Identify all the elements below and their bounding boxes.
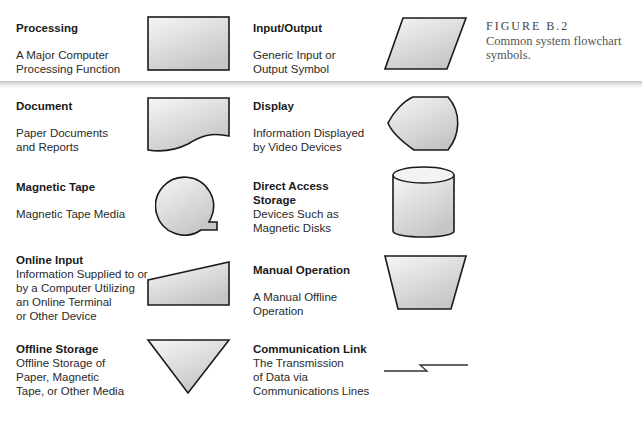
manual-operation-desc-1: A Manual Offline	[253, 290, 350, 304]
display-icon	[386, 95, 462, 153]
document-desc-2: and Reports	[16, 140, 108, 154]
offline-storage-label: Offline Storage Offline Storage of Paper…	[16, 342, 124, 398]
document-label: Document Paper Documents and Reports	[16, 99, 108, 154]
offline-storage-title: Offline Storage	[16, 342, 124, 356]
document-desc-1: Paper Documents	[16, 126, 108, 140]
online-input-desc-3: an Online Terminal	[16, 295, 148, 309]
manual-operation-title: Manual Operation	[253, 263, 350, 277]
direct-access-storage-title-2: Storage	[253, 193, 339, 207]
communication-link-desc-2: of Data via	[253, 370, 369, 384]
direct-access-storage-cylinder-icon	[391, 165, 457, 241]
magnetic-tape-label: Magnetic Tape Magnetic Tape Media	[16, 180, 125, 221]
online-input-title: Online Input	[16, 253, 148, 267]
figure-number: FIGURE B.2	[486, 19, 626, 34]
processing-label: Processing A Major Computer Processing F…	[16, 21, 120, 76]
communication-link-desc-3: Communications Lines	[253, 384, 369, 398]
document-title: Document	[16, 99, 108, 113]
manual-operation-trapezoid-icon	[383, 254, 469, 312]
magnetic-tape-desc-1: Magnetic Tape Media	[16, 207, 125, 221]
communication-link-title: Communication Link	[253, 342, 369, 356]
figure-caption-text: Common system flowchart symbols.	[486, 34, 626, 62]
direct-access-storage-desc-2: Magnetic Disks	[253, 221, 339, 235]
input-output-desc-2: Output Symbol	[253, 62, 335, 76]
manual-operation-desc-2: Operation	[253, 304, 350, 318]
offline-storage-desc-3: Tape, or Other Media	[16, 384, 124, 398]
input-output-title: Input/Output	[253, 21, 335, 35]
display-desc-2: by Video Devices	[253, 140, 364, 154]
magnetic-tape-icon	[155, 170, 221, 236]
communication-link-lightning-icon	[382, 360, 470, 374]
direct-access-storage-desc-1: Devices Such as	[253, 207, 339, 221]
online-input-desc-4: or Other Device	[16, 309, 148, 323]
processing-rectangle-icon	[146, 16, 232, 73]
processing-desc-2: Processing Function	[16, 62, 120, 76]
communication-link-label: Communication Link The Transmission of D…	[253, 342, 369, 398]
figure-caption: FIGURE B.2 Common system flowchart symbo…	[486, 19, 626, 62]
offline-storage-desc-2: Paper, Magnetic	[16, 370, 124, 384]
input-output-desc-1: Generic Input or	[253, 48, 335, 62]
display-title: Display	[253, 99, 364, 113]
offline-storage-desc-1: Offline Storage of	[16, 356, 124, 370]
online-input-label: Online Input Information Supplied to or …	[16, 253, 148, 323]
input-output-parallelogram-icon	[383, 16, 469, 72]
processing-desc-1: A Major Computer	[16, 48, 120, 62]
magnetic-tape-title: Magnetic Tape	[16, 180, 125, 194]
input-output-label: Input/Output Generic Input or Output Sym…	[253, 21, 335, 76]
display-label: Display Information Displayed by Video D…	[253, 99, 364, 154]
document-icon	[146, 96, 232, 154]
direct-access-storage-label: Direct Access Storage Devices Such as Ma…	[253, 179, 339, 235]
online-input-desc-2: by a Computer Utilizing	[16, 281, 148, 295]
display-desc-1: Information Displayed	[253, 126, 364, 140]
separator-band	[0, 81, 642, 88]
communication-link-desc-1: The Transmission	[253, 356, 369, 370]
processing-title: Processing	[16, 21, 120, 35]
online-input-desc-1: Information Supplied to or	[16, 267, 148, 281]
offline-storage-triangle-icon	[146, 338, 232, 396]
direct-access-storage-title-1: Direct Access	[253, 179, 339, 193]
online-input-manual-input-icon	[146, 260, 232, 308]
manual-operation-label: Manual Operation A Manual Offline Operat…	[253, 263, 350, 318]
